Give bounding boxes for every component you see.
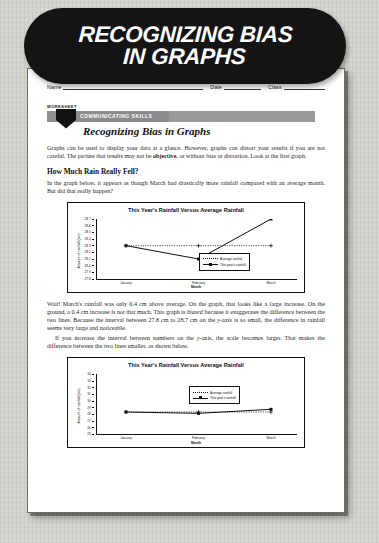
solid-line-swatch-icon: [193, 396, 208, 401]
chart-1-ytick-7: 28.5: [84, 230, 93, 234]
intro-text-b: , or without bias or distortion. Look at…: [176, 153, 306, 159]
chart-2-xlabel: Month: [96, 441, 296, 445]
chart-1-xlabel: Month: [96, 285, 296, 289]
chart-2-xtick-0: January: [120, 436, 132, 440]
class-field[interactable]: [284, 83, 325, 90]
chart-2-xtick-1: February: [192, 436, 205, 440]
chart-2-ytick-9: 34: [87, 372, 93, 376]
chart-1-legend-label-0: Average rainfall: [220, 257, 242, 261]
date-label: Date: [210, 84, 223, 90]
chart-1-legend-label-1: This year's rainfall: [220, 263, 246, 267]
chart-2-title: This Year's Rainfall Versus Average Rain…: [71, 362, 301, 368]
disc2-text-a: If you increase the interval between num…: [55, 335, 197, 341]
chart-1-ytick-8: 28.6: [84, 224, 93, 228]
chart-1-ytick-4: 28.2: [84, 250, 93, 254]
chart-2-xtick-2: March: [266, 436, 275, 440]
chart-2-ytick-7: 32: [87, 386, 93, 390]
discussion-paragraph-1: Wait! March's rainfall was only 0.4 cm a…: [47, 300, 325, 332]
chart-2-ytick-4: 29: [87, 406, 93, 410]
chart-2-ytick-6: 31: [87, 392, 93, 396]
banner-bar: COMMUNICATING SKILLS: [47, 111, 315, 122]
chart-1-legend-item-average: + Average rainfall: [203, 256, 246, 261]
chart-1-xtick-2: March: [266, 281, 275, 285]
intro-paragraph: Graphs can be used to display your data …: [47, 144, 325, 160]
chart-1-ytick-9: 28.7: [84, 217, 93, 221]
chart-1-legend-item-thisyear: This year's rainfall: [203, 262, 246, 267]
shield-icon: [56, 109, 76, 129]
chart-2-plot: Amount of rainfall (cm) 2526272829303132…: [71, 370, 301, 444]
section1-paragraph: In the graph below, it appears as though…: [47, 179, 325, 195]
chart-2-series: [96, 374, 296, 434]
chart-1-title: This Year's Rainfall Versus Average Rain…: [71, 207, 301, 213]
chart-1-yticks: 27.827.928.028.128.228.328.428.528.628.7: [80, 219, 95, 279]
dotted-line-swatch-icon: +: [203, 256, 218, 261]
name-field[interactable]: [63, 83, 203, 90]
chart-1-series: [96, 219, 296, 279]
chart-1-xtick-0: January: [120, 281, 132, 285]
chart-1-ytick-5: 28.3: [84, 244, 93, 248]
chart-1: This Year's Rainfall Versus Average Rain…: [67, 202, 305, 293]
chart-1-legend: + Average rainfall This year's rainfall: [199, 253, 250, 271]
intro-bold-objective: objective: [153, 153, 176, 159]
class-label: Class: [268, 84, 283, 90]
chart-2-ytick-3: 28: [87, 412, 93, 416]
banner-title: RECOGNIZING BIAS IN GRAPHS: [77, 24, 293, 68]
solid-line-swatch-icon: [203, 262, 218, 267]
banner-title-line2: IN GRAPHS: [123, 44, 247, 69]
chart-2-ytick-0: 25: [87, 432, 93, 436]
disc-italic-biased: biased: [187, 309, 203, 315]
worksheet-tag: WORKSHEET: [47, 104, 325, 109]
banner-bar-text: COMMUNICATING SKILLS: [80, 113, 152, 119]
chart-1-plot: Amount of rainfall (cm) 27.827.928.028.1…: [71, 215, 301, 289]
chart-2-legend-item-thisyear: This year's rainfall: [193, 396, 236, 401]
chart-2-yticks: 25262728293031323334: [80, 374, 95, 434]
title-banner: RECOGNIZING BIAS IN GRAPHS: [24, 8, 346, 84]
worksheet-content: Name Date Class WORKSHEET COMMUNICATING …: [47, 83, 325, 455]
chart-2-legend-item-average: + Average rainfall: [193, 390, 236, 395]
chart-2-ytick-8: 33: [87, 379, 93, 383]
chart-1-ytick-0: 27.8: [84, 277, 93, 281]
chart-1-ytick-6: 28.4: [84, 237, 93, 241]
chart-2: This Year's Rainfall Versus Average Rain…: [67, 357, 305, 448]
date-field[interactable]: [224, 83, 261, 90]
worksheet-sheet: Name Date Class WORKSHEET COMMUNICATING …: [27, 68, 345, 513]
chart-1-ytick-3: 28.1: [84, 257, 93, 261]
communicating-skills-banner: COMMUNICATING SKILLS: [47, 111, 325, 122]
chart-2-ytick-1: 26: [87, 426, 93, 430]
chart-2-legend-label-0: Average rainfall: [210, 391, 232, 395]
worksheet-subtitle: Recognizing Bias in Graphs: [83, 125, 325, 137]
chart-2-legend-label-1: This year's rainfall: [210, 396, 236, 400]
chart-1-ytick-1: 27.9: [84, 270, 93, 274]
discussion-paragraph-2: If you increase the interval between num…: [47, 334, 325, 350]
section-heading-rain: How Much Rain Really Fell?: [47, 167, 325, 176]
student-info-line: Name Date Class: [47, 83, 325, 90]
chart-2-legend: + Average rainfall This year's rainfall: [189, 386, 240, 404]
chart-1-xtick-1: February: [192, 281, 205, 285]
name-label: Name: [47, 84, 63, 90]
chart-1-ytick-2: 28.0: [84, 264, 93, 268]
chart-2-ytick-2: 27: [87, 419, 93, 423]
chart-2-ytick-5: 30: [87, 399, 93, 403]
dotted-line-swatch-icon: +: [193, 390, 208, 395]
